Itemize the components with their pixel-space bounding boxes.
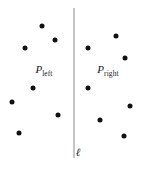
label-p-right: Pright [97,64,118,78]
data-point-p-right-4 [86,86,91,91]
data-point-p-left-5 [10,100,15,105]
data-point-p-right-2 [86,46,91,51]
data-point-p-right-3 [123,56,128,61]
dividing-line-l [74,8,75,158]
data-point-p-left-3 [23,46,28,51]
data-point-p-left-6 [56,113,61,118]
label-p-left-base: P [35,63,42,75]
label-p-right-subscript: right [104,69,119,78]
label-p-right-base: P [97,63,104,75]
point-set-partition-diagram: Pleft Pright ℓ [0,0,154,173]
data-point-p-left-1 [40,24,45,29]
data-point-p-right-5 [128,104,133,109]
data-point-p-right-6 [98,118,103,123]
label-p-left: Pleft [35,64,52,78]
data-point-p-left-4 [31,86,36,91]
data-point-p-left-2 [53,38,58,43]
data-point-p-left-7 [17,131,22,136]
label-p-left-subscript: left [42,69,52,78]
label-line-ell: ℓ [76,147,81,158]
data-point-p-right-1 [114,34,119,39]
data-point-p-right-7 [122,134,127,139]
